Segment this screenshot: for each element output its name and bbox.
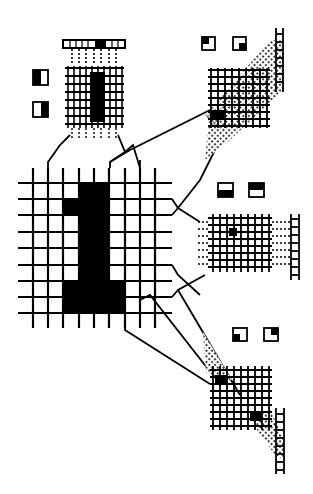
icon-bottom-right-corner-filled: [233, 37, 246, 50]
stipple-band: [205, 40, 283, 160]
detector-diagonal-up: [202, 28, 283, 160]
connector-vertical-right: [110, 135, 125, 168]
input-grid: [18, 168, 172, 328]
icon-left-half-filled: [33, 70, 48, 85]
icon-top-right-corner-filled: [264, 328, 278, 341]
output-strip-top: [63, 40, 125, 63]
detector-vertical: [33, 40, 125, 140]
detector-array-horizontal: [208, 214, 272, 272]
feature-detector-diagram: [0, 0, 313, 494]
detector-array-vertical: [65, 66, 124, 140]
output-strip-horizontal: [291, 214, 299, 280]
connector-diagup-left: [110, 110, 210, 162]
icon-right-half-filled: [33, 102, 48, 117]
connector-vertical-left: [48, 135, 70, 168]
icon-bottom-half-filled: [249, 183, 264, 197]
detector-horizontal: [198, 183, 299, 280]
detector-diagonal-down: [203, 328, 285, 474]
icon-top-half-filled: [218, 183, 233, 197]
connector-horizontal-bottom2: [172, 275, 205, 297]
icon-bottom-left-corner-filled: [202, 37, 215, 50]
icon-top-left-corner-filled: [233, 328, 247, 341]
